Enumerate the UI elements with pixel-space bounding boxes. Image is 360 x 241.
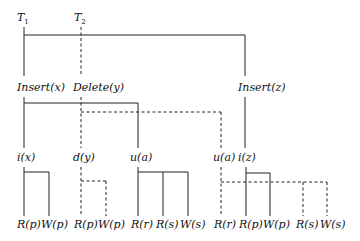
root-t2-label: T2 <box>74 11 86 26</box>
u-a-dashed-edges <box>221 167 327 216</box>
leaf-label: R(r) <box>130 218 153 231</box>
d-y-edges <box>81 167 106 216</box>
i-x-edges <box>24 167 49 216</box>
leaf-label: W(s) <box>180 218 206 231</box>
leaf-label: W(p) <box>263 218 290 231</box>
u-a-label-1: u(a) <box>130 151 152 164</box>
leaf-label: W(p) <box>98 218 125 231</box>
d-y-label: d(y) <box>73 151 95 164</box>
leaf-label: R(p) <box>238 218 263 231</box>
u-a-label-2: u(a) <box>213 151 235 164</box>
i-x-label: i(x) <box>17 151 35 164</box>
u-a-solid-edges <box>138 167 188 216</box>
leaf-label: R(p) <box>16 218 41 231</box>
i-z-label: i(z) <box>238 151 256 164</box>
delete-y-edges <box>81 97 221 148</box>
insert-x-label: Insert(x) <box>16 81 65 94</box>
delete-y-label: Delete(y) <box>72 81 124 94</box>
leaf-label: R(r) <box>213 218 236 231</box>
leaf-label: W(p) <box>41 218 68 231</box>
root-t1-label: T1 <box>17 11 29 26</box>
i-z-edges <box>246 167 270 216</box>
transaction-tree-diagram: T1 T2 Insert(x) Delete(y) Insert(z) i(x)… <box>0 0 360 241</box>
leaf-label: R(p) <box>73 218 98 231</box>
leaf-label: R(s) <box>155 218 179 231</box>
insert-z-label: Insert(z) <box>237 81 286 94</box>
leaf-label: W(s) <box>320 218 346 231</box>
leaf-labels: R(p) W(p) R(p) W(p) R(r) R(s) W(s) R(r) … <box>16 218 346 231</box>
t1-edges <box>24 27 245 76</box>
leaf-label: R(s) <box>295 218 319 231</box>
